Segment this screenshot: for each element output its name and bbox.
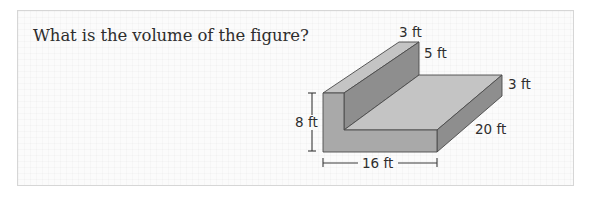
label-wall-top-width: 3 ft	[399, 24, 422, 40]
label-depth: 20 ft	[475, 121, 506, 137]
label-wall-height: 5 ft	[424, 45, 447, 61]
label-base-thickness: 3 ft	[508, 76, 531, 92]
label-front-width: 16 ft	[362, 155, 393, 171]
l-shaped-prism-figure: 3 ft 5 ft 3 ft 20 ft 8 ft 16 ft	[0, 0, 592, 198]
label-total-height: 8 ft	[295, 114, 318, 130]
